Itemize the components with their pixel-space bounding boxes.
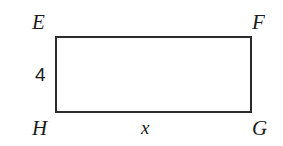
side-length-label-left: 4 — [35, 65, 46, 85]
vertex-label-g: G — [252, 118, 267, 139]
vertex-label-e: E — [32, 12, 45, 33]
side-length-label-bottom: x — [141, 118, 149, 138]
rectangle-efgh-shape — [55, 36, 252, 113]
vertex-label-f: F — [252, 12, 265, 33]
vertex-label-h: H — [32, 118, 47, 139]
geometry-figure-canvas: E F G H 4 x — [0, 0, 283, 146]
